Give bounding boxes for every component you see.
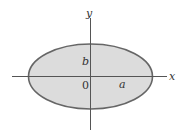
y-axis-label: y (85, 7, 93, 20)
x-axis-label: x (169, 70, 176, 83)
origin-label: 0 (82, 79, 89, 92)
semi-major-label: a (119, 78, 126, 91)
semi-minor-label: b (82, 55, 89, 68)
ellipse-diagram: y x b 0 a (0, 0, 188, 138)
